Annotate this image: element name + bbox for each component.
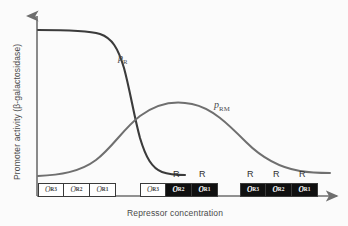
operator-cell-or2: OR2 [266,183,292,197]
operator-cell-or3: OR3 [240,183,266,197]
repressor-marker: R [299,170,306,179]
operator-group-low: OR3 OR2 OR1 [38,183,116,197]
repressor-marker: R [173,170,180,179]
curve-label-pR: pR [118,52,128,65]
operator-cell-or1: OR1 [90,183,116,197]
operator-cell-sub: R2 [278,187,285,192]
operator-cell-or3: OR3 [140,183,166,197]
operator-cell-sub: R2 [76,187,83,192]
x-axis-label: Repressor concentration [127,208,223,218]
operator-cell-sub: R2 [178,187,185,192]
operator-cell-or2: OR2 [166,183,192,197]
curve-label-pRM-sub: RM [219,105,230,112]
operator-group-intermediate: OR3 OR2 OR1 [140,183,218,197]
operator-group-high: OR3 OR2 OR1 [240,183,318,197]
operator-cell-sub: R3 [252,187,259,192]
operator-cell-or3: OR3 [38,183,64,197]
promoter-activity-figure: Promoter activity (β-galactosidase) Repr… [0,0,348,226]
operator-cell-or2: OR2 [64,183,90,197]
curve-pRM [38,103,330,177]
curve-label-pR-sub: R [123,58,128,65]
operator-cell-sub: R3 [152,187,159,192]
operator-cell-sub: R1 [304,187,311,192]
repressor-marker: R [273,170,280,179]
operator-cell-sub: R3 [50,187,57,192]
operator-cell-sub: R1 [102,187,109,192]
operator-cell-sub: R1 [204,187,211,192]
operator-cell-or1: OR1 [192,183,218,197]
repressor-marker: R [199,170,206,179]
y-axis-label: Promoter activity (β-galactosidase) [12,20,22,180]
curve-pR [38,30,185,175]
repressor-marker: R [247,170,254,179]
curve-label-pRM: pRM [214,99,230,112]
operator-cell-or1: OR1 [292,183,318,197]
